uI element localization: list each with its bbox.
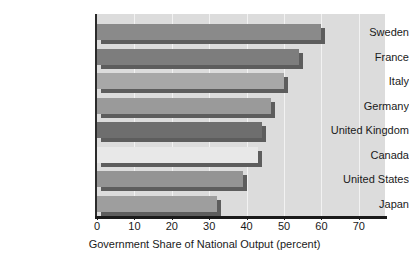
bar-shadow (217, 200, 221, 216)
bar-shadow (101, 65, 303, 69)
x-tick-label: 30 (194, 221, 224, 232)
bar-united-kingdom[interactable] (97, 122, 262, 138)
bar-shadow (299, 53, 303, 69)
bar-shadow (101, 114, 275, 118)
bar-fill (97, 147, 258, 163)
bar-france[interactable] (97, 49, 299, 65)
gridline (284, 14, 285, 216)
category-label: Germany (317, 101, 409, 112)
bar-shadow (243, 175, 247, 191)
bar-shadow (101, 89, 288, 93)
x-tick-label: 50 (269, 221, 299, 232)
bar-shadow (101, 40, 325, 44)
bar-fill (97, 171, 243, 187)
category-label: France (317, 52, 409, 63)
bar-shadow (101, 187, 247, 191)
bar-fill (97, 98, 271, 114)
category-label: Japan (317, 199, 409, 210)
bar-fill (97, 122, 262, 138)
bar-shadow (271, 102, 275, 118)
bar-shadow (284, 77, 288, 93)
x-axis-line (95, 216, 387, 219)
bar-shadow (101, 163, 262, 167)
bar-united-states[interactable] (97, 171, 243, 187)
gridline (321, 14, 322, 216)
bar-sweden[interactable] (97, 24, 321, 40)
category-label: United States (317, 174, 409, 185)
x-axis-title: Government Share of National Output (per… (0, 238, 409, 250)
bar-canada[interactable] (97, 147, 258, 163)
gridline (359, 14, 360, 216)
x-tick-label: 60 (306, 221, 336, 232)
x-tick-label: 70 (344, 221, 374, 232)
x-tick-label: 10 (119, 221, 149, 232)
bar-fill (97, 196, 217, 212)
bar-chart: Government Share of National Output (per… (0, 0, 409, 257)
bar-fill (97, 24, 321, 40)
bar-shadow (101, 212, 221, 216)
bar-germany[interactable] (97, 98, 271, 114)
category-label: United Kingdom (317, 125, 409, 136)
category-label: Sweden (317, 27, 409, 38)
bar-shadow (262, 126, 266, 142)
x-tick-label: 40 (232, 221, 262, 232)
bar-japan[interactable] (97, 196, 217, 212)
bar-shadow (101, 138, 266, 142)
bar-shadow (258, 151, 262, 167)
bar-italy[interactable] (97, 73, 284, 89)
bar-fill (97, 73, 284, 89)
x-tick-label: 20 (157, 221, 187, 232)
category-label: Canada (317, 150, 409, 161)
category-label: Italy (317, 76, 409, 87)
x-tick-label: 0 (82, 221, 112, 232)
bar-fill (97, 49, 299, 65)
